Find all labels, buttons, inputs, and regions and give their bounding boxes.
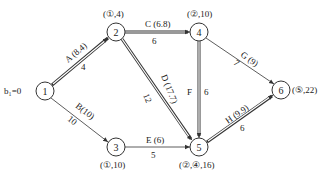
edge-g-label: G (9)	[239, 49, 261, 68]
node-4: 4	[190, 23, 208, 41]
edge-g: G (9) 7	[206, 38, 274, 84]
node-1-label: 1	[43, 86, 48, 97]
edge-d: D (17.7) 12	[122, 39, 192, 140]
edge-d-label: D (17.7)	[159, 73, 180, 105]
edge-a-duration: 4	[81, 62, 86, 72]
network-diagram: A (8.4) 4 B(10) 10 C (6.8) 6 D (17.7) 12…	[0, 0, 329, 183]
edge-f-duration: 6	[204, 87, 209, 97]
node-6: 6	[272, 81, 290, 99]
node-2: 2	[107, 23, 125, 41]
edge-c-duration: 6	[152, 36, 157, 46]
node-1: 1	[36, 82, 54, 100]
node-3-annotation: (①,10)	[100, 160, 125, 170]
node-3: 3	[107, 138, 125, 156]
edge-e-label: E (6)	[146, 135, 164, 145]
node-2-label: 2	[114, 27, 119, 38]
node-6-annotation: (⑤,22)	[292, 85, 317, 95]
node-5: 5	[190, 138, 208, 156]
edge-a: A (8.4) 4	[52, 38, 108, 85]
node-2-annotation: (①,4)	[103, 9, 124, 19]
edge-h: H (9.9) 6	[207, 95, 273, 142]
edge-e-duration: 5	[151, 150, 156, 160]
node-5-annotation: (②,④,16)	[179, 160, 215, 170]
edge-g-duration: 7	[232, 57, 242, 68]
edge-c-label: C (6.8)	[145, 19, 171, 29]
edge-f-label: F	[187, 87, 192, 97]
edge-d-duration: 12	[141, 92, 154, 104]
edge-f: F 6	[187, 41, 209, 138]
edge-b-duration: 10	[66, 114, 80, 128]
edge-c: C (6.8) 6	[125, 19, 190, 46]
node-4-label: 4	[197, 27, 202, 38]
edge-b: B(10) 10	[51, 98, 108, 142]
node-6-label: 6	[279, 85, 284, 96]
edge-a-label: A (8.4)	[63, 40, 89, 64]
edge-e: E (6) 5	[125, 135, 190, 160]
node-5-label: 5	[197, 142, 202, 153]
edge-h-duration: 6	[240, 123, 245, 133]
node-4-annotation: (②,10)	[187, 9, 212, 19]
node-3-label: 3	[114, 142, 119, 153]
start-label: b₁=0	[4, 86, 22, 96]
